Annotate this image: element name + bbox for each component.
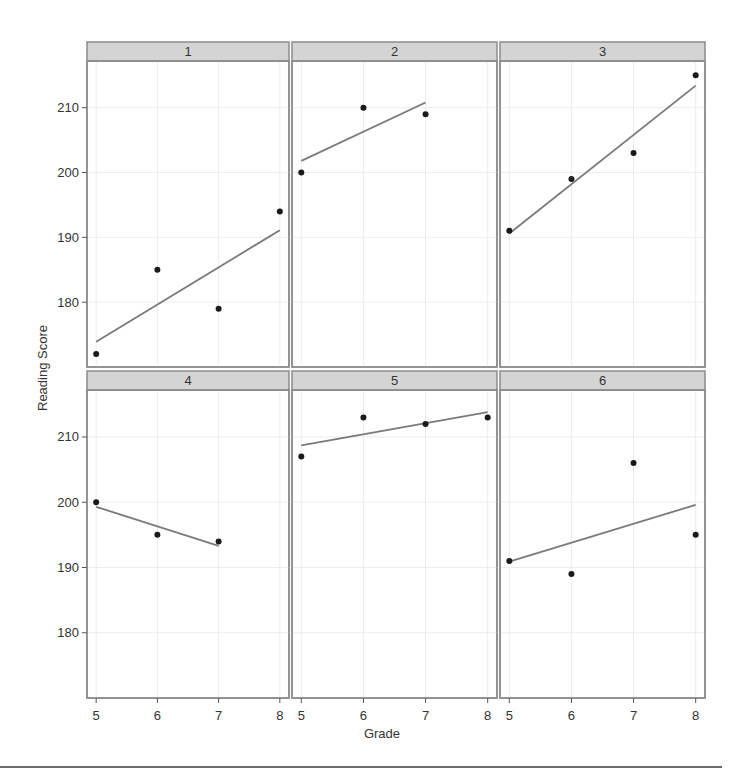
y-tick-label: 210 [57, 429, 79, 444]
data-point [631, 150, 637, 156]
y-tick-label: 190 [57, 560, 79, 575]
panel-frame [87, 61, 289, 367]
x-tick-label: 8 [484, 708, 491, 723]
panel-strip-label: 5 [391, 373, 398, 388]
data-point [693, 72, 699, 78]
data-point [216, 538, 222, 544]
y-tick-label: 200 [57, 495, 79, 510]
panel-4: 4 [87, 371, 289, 698]
data-point [154, 532, 160, 538]
panel-frame [87, 390, 289, 698]
panel-strip-label: 1 [184, 44, 191, 59]
data-point [506, 228, 512, 234]
panel-6: 6 [500, 371, 705, 698]
x-axis-title: Grade [364, 726, 400, 741]
x-tick-label: 7 [422, 708, 429, 723]
x-tick-label: 8 [276, 708, 283, 723]
data-point [568, 571, 574, 577]
x-tick-label: 8 [692, 708, 699, 723]
x-tick-label: 5 [93, 708, 100, 723]
panel-strip-label: 4 [184, 373, 191, 388]
data-point [154, 267, 160, 273]
x-tick-label: 5 [298, 708, 305, 723]
panel-frame [292, 390, 497, 698]
trellis-chart: 123456 180190200210180190200210567856785… [0, 0, 737, 776]
panel-1: 1 [87, 42, 289, 367]
panel-3: 3 [500, 42, 705, 367]
panel-strip-label: 2 [391, 44, 398, 59]
panel-strip-label: 6 [599, 373, 606, 388]
data-point [631, 460, 637, 466]
x-tick-label: 7 [215, 708, 222, 723]
panel-frame [292, 61, 497, 367]
data-point [298, 170, 304, 176]
data-point [423, 111, 429, 117]
panel-2: 2 [292, 42, 497, 367]
panels-group: 123456 [87, 42, 705, 698]
data-point [506, 558, 512, 564]
y-tick-label: 210 [57, 100, 79, 115]
data-point [216, 306, 222, 312]
x-tick-label: 6 [360, 708, 367, 723]
data-point [485, 414, 491, 420]
data-point [568, 176, 574, 182]
data-point [360, 414, 366, 420]
data-point [277, 208, 283, 214]
data-point [693, 532, 699, 538]
y-tick-label: 180 [57, 295, 79, 310]
x-tick-label: 5 [506, 708, 513, 723]
data-point [93, 499, 99, 505]
x-tick-label: 7 [630, 708, 637, 723]
panel-5: 5 [292, 371, 497, 698]
panel-frame [500, 390, 705, 698]
data-point [360, 105, 366, 111]
panel-frame [500, 61, 705, 367]
data-point [423, 421, 429, 427]
data-point [298, 454, 304, 460]
x-tick-label: 6 [154, 708, 161, 723]
panel-strip-label: 3 [599, 44, 606, 59]
y-tick-label: 200 [57, 165, 79, 180]
data-point [93, 351, 99, 357]
y-tick-label: 180 [57, 625, 79, 640]
x-tick-label: 6 [568, 708, 575, 723]
y-tick-label: 190 [57, 230, 79, 245]
y-axis-title: Reading Score [35, 325, 50, 411]
